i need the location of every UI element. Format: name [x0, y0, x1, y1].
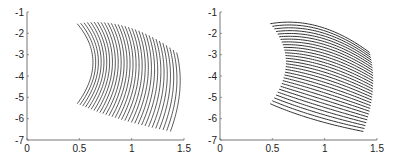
curve — [159, 45, 170, 129]
y-tick-label: -1 — [208, 7, 217, 18]
y-tick-label: -6 — [15, 113, 24, 124]
y-tick-label: -4 — [208, 71, 217, 82]
curve — [88, 22, 104, 108]
curve — [80, 23, 96, 105]
x-tick-label: 1.5 — [177, 143, 191, 154]
x-tick-label: 0.5 — [72, 143, 86, 154]
y-tick-label: -3 — [208, 49, 217, 60]
curve — [167, 50, 177, 131]
panel-2: -1-2-3-4-5-6-700.511.5 — [208, 7, 384, 155]
x-tick-label: 1 — [322, 143, 328, 154]
panel-1: -1-2-3-4-5-6-700.511.5 — [15, 7, 191, 155]
y-tick-label: -7 — [208, 135, 217, 146]
x-tick-label: 0 — [24, 143, 30, 154]
curve — [156, 43, 168, 128]
y-tick-label: -3 — [15, 49, 24, 60]
curve — [77, 24, 93, 104]
curve — [125, 28, 139, 120]
x-tick-label: 0.5 — [265, 143, 279, 154]
chart-canvas: -1-2-3-4-5-6-700.511.5-1-2-3-4-5-6-700.5… — [0, 0, 398, 163]
curve — [170, 53, 180, 132]
y-tick-label: -2 — [208, 28, 217, 39]
curve — [163, 48, 174, 130]
x-tick-label: 1.5 — [370, 143, 384, 154]
curve — [85, 22, 101, 107]
y-tick-label: -5 — [208, 92, 217, 103]
y-tick-label: -2 — [15, 28, 24, 39]
y-tick-label: -6 — [208, 113, 217, 124]
x-tick-label: 1 — [129, 143, 135, 154]
y-tick-label: -5 — [15, 92, 24, 103]
x-tick-label: 0 — [217, 143, 223, 154]
y-tick-label: -7 — [15, 135, 24, 146]
y-tick-label: -1 — [15, 7, 24, 18]
y-tick-label: -4 — [15, 71, 24, 82]
